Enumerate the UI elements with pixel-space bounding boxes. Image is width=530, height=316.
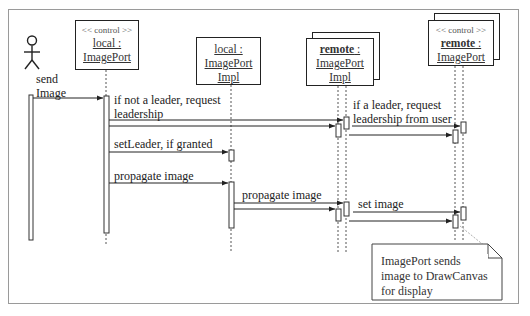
label-line2: Image — [36, 86, 66, 100]
message-label-request-leadership: if not a leader, request leadership — [114, 93, 220, 121]
label-line1: if not a leader, request — [114, 93, 220, 107]
object-name-line3: Impl — [197, 70, 260, 84]
message-label-propagate-image-remote: propagate image — [242, 188, 322, 202]
label-line2: leadership from user — [353, 112, 452, 126]
stereotype-label: << control >> — [429, 24, 493, 36]
message-label-send-image: send Image — [36, 72, 66, 100]
object-name-line2: ImagePort — [429, 50, 493, 64]
object-name-line2: ImagePort — [307, 56, 373, 70]
label-line1: if a leader, request — [353, 98, 452, 112]
object-name-line3: Impl — [307, 70, 373, 84]
message-label-set-image: set image — [358, 197, 404, 211]
object-remote-imageportimpl[interactable]: remote : ImagePort Impl — [306, 38, 374, 86]
object-name-bold: remote — [320, 43, 354, 55]
object-name-line1: local : — [197, 42, 260, 56]
note-line2: image to DrawCanvas — [381, 269, 488, 284]
object-local-imageport[interactable]: << control >> local : ImagePort — [75, 20, 139, 70]
object-name-colon: : — [475, 37, 481, 49]
note-line1: ImagePort sends — [381, 254, 488, 269]
object-name-line2: ImagePort — [76, 50, 138, 64]
stereotype-label: << control >> — [76, 24, 138, 36]
message-label-propagate-image-local: propagate image — [114, 169, 194, 183]
object-remote-imageport[interactable]: << control >> remote : ImagePort — [428, 20, 494, 66]
object-name-bold: remote — [441, 37, 475, 49]
message-label-setleader: setLeader, if granted — [114, 137, 212, 151]
label-line1: send — [36, 72, 66, 86]
actor-stick-figure-icon — [24, 36, 40, 69]
object-name-line1: local : — [76, 36, 138, 50]
object-name-colon: : — [354, 43, 360, 55]
object-name-line2: ImagePort — [197, 56, 260, 70]
object-local-imageportimpl[interactable]: local : ImagePort Impl — [196, 37, 261, 85]
label-line2: leadership — [114, 107, 220, 121]
note-line3: for display — [381, 284, 488, 299]
note-text: ImagePort sends image to DrawCanvas for … — [381, 254, 488, 299]
message-label-leadership-from-user: if a leader, request leadership from use… — [353, 98, 452, 126]
